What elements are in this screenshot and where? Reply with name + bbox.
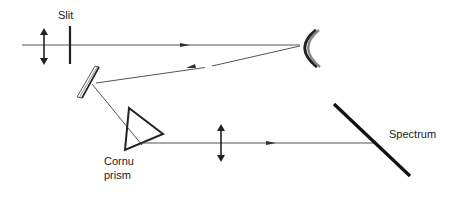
ray-arrow-icon [266,141,276,145]
spectrum-label: Spectrum [389,128,436,141]
ray-arrow-icon [186,64,196,68]
ray-to-prism [92,84,142,145]
return-ray [212,46,300,66]
return-ray-segment [96,68,205,84]
concave-mirror [305,30,320,67]
cornu-prism [125,108,163,150]
plane-mirror [77,66,99,98]
lens-icon [40,28,48,65]
optical-layout [0,0,465,199]
diagram: Slit Cornu prism Spectrum [0,0,465,199]
ray-arrow-icon [180,43,190,47]
slit-label: Slit [58,9,73,22]
prism-label-line2: prism [104,169,131,182]
prism-label-line1: Cornu [104,155,134,168]
